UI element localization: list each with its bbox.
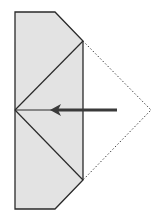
folding-diagram bbox=[0, 0, 155, 219]
